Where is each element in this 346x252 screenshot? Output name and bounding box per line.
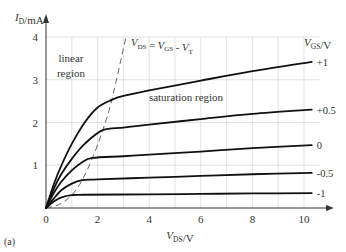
y-axis-arrow-icon	[43, 14, 49, 23]
legend-title: VGS/V	[304, 36, 331, 51]
curve-vgs-minus0.5	[46, 173, 312, 208]
curve-label: +0.5	[317, 105, 336, 116]
y-tick-label: 2	[33, 117, 39, 129]
y-axis-title: ID/mA	[14, 11, 44, 26]
id-vds-characteristic-chart: 02468101234VDS/VID/mA(a)VGS/VVDS = VGS -…	[0, 0, 346, 252]
x-tick-label: 10	[299, 213, 311, 225]
saturation-region-label: saturation region	[149, 91, 224, 103]
curve-vgs-minus1	[46, 193, 312, 208]
panel-label: (a)	[4, 236, 15, 248]
boundary-equation-label: VDS = VGS - VT	[131, 37, 193, 56]
labels: 02468101234VDS/VID/mA(a)VGS/VVDS = VGS -…	[4, 11, 336, 248]
x-tick-label: 4	[146, 213, 152, 225]
x-axis-title: VDS/V	[166, 229, 193, 244]
x-tick-label: 0	[43, 213, 49, 225]
y-tick-label: 3	[33, 74, 39, 86]
linear-region-label: linear	[58, 52, 83, 64]
y-tick-label: 4	[33, 31, 39, 43]
characteristic-curves	[46, 62, 312, 208]
curve-label: 0	[317, 140, 322, 151]
x-tick-label: 8	[250, 213, 256, 225]
x-axis-arrow-icon	[326, 205, 334, 211]
axes	[43, 14, 334, 211]
y-tick-label: 1	[33, 159, 39, 171]
x-tick-label: 6	[198, 213, 204, 225]
curve-label: -0.5	[317, 168, 334, 179]
x-tick-label: 2	[95, 213, 101, 225]
curve-vgs-plus1	[46, 62, 312, 208]
curve-label: +1	[317, 57, 328, 68]
grid	[46, 37, 319, 208]
linear-region-label: region	[57, 67, 86, 79]
curve-label: -1	[317, 188, 326, 199]
